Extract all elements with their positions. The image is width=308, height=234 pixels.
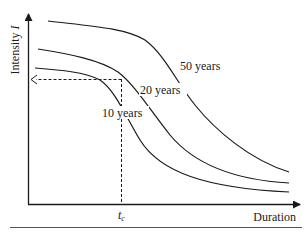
label-50-years: 50 years (180, 59, 221, 73)
idf-chart: 50 years 20 years 10 years Intensity I D… (0, 0, 308, 234)
curve-50-years (48, 21, 289, 172)
tc-label: tc (118, 208, 125, 223)
label-10-years: 10 years (102, 106, 143, 120)
label-20-years: 20 years (140, 83, 181, 97)
x-axis-label: Duration (253, 210, 296, 224)
y-axis-label: Intensity I (8, 25, 22, 75)
